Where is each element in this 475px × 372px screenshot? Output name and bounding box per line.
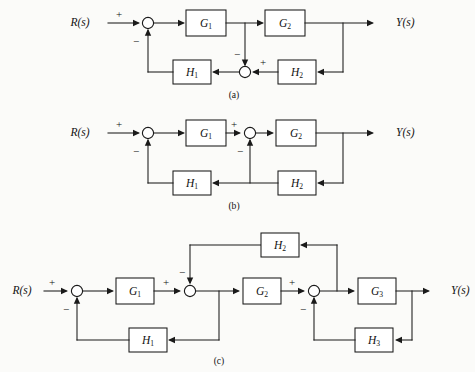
sign-sum1-left-b: + <box>116 118 122 130</box>
caption-a: (a) <box>229 89 240 101</box>
sign-sum3-left-c: + <box>289 276 295 288</box>
figure-canvas: R(s) + − G1 G2 <box>0 0 475 372</box>
wire-g1-to-sum2-b <box>226 130 241 136</box>
sign-sum2-right-a: + <box>260 56 266 68</box>
sign-sum1-left-a: + <box>116 8 122 20</box>
wire-g3-to-output-c <box>396 288 430 294</box>
wire-sum1-to-g1-a <box>154 20 185 26</box>
sign-sum1-bottom-c: − <box>63 303 69 315</box>
wire-output-branch-to-h2-a <box>317 23 343 75</box>
diagram-c: R(s) + − G1 + − <box>11 233 469 367</box>
output-label-c: Y(s) <box>451 284 470 297</box>
summing-junction-1-b <box>142 127 153 138</box>
wire-input-to-sum1-a <box>108 20 140 26</box>
wire-sum2-to-g2-b <box>256 130 274 136</box>
wire-g2-to-output-b <box>316 130 374 136</box>
sign-sum2-left-b: + <box>231 118 237 130</box>
wire-sum3-to-g3-c <box>320 245 355 294</box>
input-label-a: R(s) <box>69 16 89 29</box>
wire-h3-to-sum3-c <box>311 297 355 340</box>
wire-sum2-to-g2-c <box>196 288 240 294</box>
sign-sum2-left-c: + <box>163 276 169 288</box>
wire-g2-to-sum3-c <box>281 288 305 294</box>
sign-sum2-bottom-b: − <box>237 145 243 157</box>
sign-sum2-top-a: − <box>234 48 240 60</box>
summing-junction-2-c <box>184 285 195 296</box>
wire-h1-to-sum1-b <box>145 139 173 183</box>
input-label-b: R(s) <box>69 126 89 139</box>
sign-sum1-bottom-b: − <box>133 145 139 157</box>
output-label-b: Y(s) <box>396 126 415 139</box>
wire-g1-to-sum2-c <box>154 288 181 294</box>
sign-sum1-left-c: + <box>49 276 55 288</box>
caption-b: (b) <box>228 200 239 212</box>
wire-h2-to-sum2-a <box>252 69 278 75</box>
diagram-b: R(s) + − G1 + − G2 <box>69 118 414 213</box>
caption-c: (c) <box>214 355 225 367</box>
wire-sum1-to-g1-b <box>154 130 185 136</box>
wire-sum2-to-h1-a <box>212 69 239 75</box>
wire-input-to-sum1-b <box>108 130 140 136</box>
output-label-a: Y(s) <box>396 16 415 29</box>
wire-h1-path-c <box>168 291 219 343</box>
block-diagram-figure: R(s) + − G1 G2 <box>0 0 475 372</box>
sign-sum2-top-c: − <box>179 266 185 278</box>
sign-sum1-bottom-a: − <box>133 35 139 47</box>
wire-sum1-to-g1-c <box>83 288 114 294</box>
wire-g2-to-output-a <box>305 20 374 26</box>
sign-sum3-bottom-c: − <box>300 303 306 315</box>
summing-junction-1-c <box>71 285 82 296</box>
summing-junction-1-a <box>142 17 153 28</box>
summing-junction-2-a <box>239 66 250 77</box>
summing-junction-2-b <box>244 127 255 138</box>
wire-g1-tap-to-sum2-a <box>242 23 248 66</box>
wire-h2-to-sum2-c <box>187 245 193 284</box>
input-label-c: R(s) <box>11 284 31 297</box>
wire-output-branch-to-h2-b <box>317 133 343 186</box>
diagram-a: R(s) + − G1 G2 <box>69 8 414 102</box>
wire-h3-path-c <box>395 291 412 343</box>
summing-junction-3-c <box>308 285 319 296</box>
wire-input-to-sum1-c <box>44 288 68 294</box>
wire-h1-to-sum1-a <box>145 29 173 72</box>
